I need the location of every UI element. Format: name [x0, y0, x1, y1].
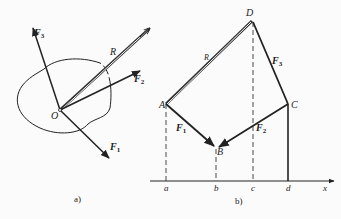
f2-label-a: F2 [133, 73, 145, 86]
origin-point [59, 109, 62, 112]
caption-b: b) [235, 196, 243, 206]
force-f3-a [33, 28, 60, 110]
rigid-body-outline [17, 59, 111, 133]
point-d-label: D [245, 7, 254, 18]
caption-a: a) [74, 194, 81, 204]
resultant-label-b: R [203, 53, 209, 62]
resultant-vector-b [166, 21, 252, 104]
f1-label-b: F1 [175, 122, 187, 135]
resultant-vector-a [60, 28, 150, 110]
f3-label-a: F3 [33, 27, 45, 40]
tick-c: c [251, 183, 255, 193]
tick-b: b [214, 183, 219, 193]
force-f2-b [219, 104, 288, 147]
point-a-label: A [158, 99, 166, 110]
force-f3-b [253, 22, 288, 104]
f2-label-b: F2 [255, 122, 267, 135]
tick-d: d [286, 183, 291, 193]
resultant-label-a: R [109, 46, 116, 57]
origin-label: O [51, 110, 58, 121]
f1-label-a: F1 [109, 141, 121, 154]
tick-a: a [164, 183, 169, 193]
force-f2-a [60, 71, 140, 110]
force-polygon-figure: O R F3 F2 F1 a) D A B C R F1 F2 F3 a [0, 0, 341, 219]
point-c-label: C [291, 99, 298, 110]
point-b-label: B [217, 146, 223, 157]
figure-a: O R F3 F2 F1 a) [17, 27, 150, 204]
force-f1-b [166, 104, 214, 146]
diagram-svg: O R F3 F2 F1 a) D A B C R F1 F2 F3 a [0, 0, 341, 219]
figure-b: D A B C R F1 F2 F3 a b c d x b) [150, 7, 334, 206]
axis-x-label: x [322, 183, 327, 193]
